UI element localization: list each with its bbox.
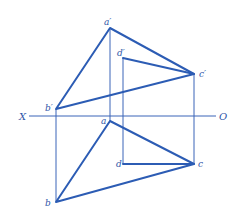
label-d: d: [116, 159, 122, 169]
axis-label-x: X: [18, 111, 27, 122]
label-a: a: [101, 116, 106, 126]
top-view-triangle: [56, 121, 194, 202]
projection-diagram: X O a′ b′ c′ d′ a b c d: [0, 0, 240, 223]
label-d-prime: d′: [117, 48, 125, 58]
label-c: c: [198, 159, 203, 169]
label-b-prime: b′: [45, 103, 53, 113]
label-c-prime: c′: [199, 69, 206, 79]
axis-label-o: O: [219, 111, 227, 122]
label-b: b: [45, 198, 51, 208]
line-d-prime-c-prime: [123, 58, 194, 74]
label-a-prime: a′: [104, 17, 111, 27]
